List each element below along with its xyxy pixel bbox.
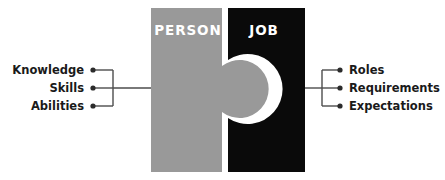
right-item-label-requirements: Requirements — [349, 81, 440, 95]
left-leader-lines — [93, 70, 151, 106]
right-item-label-roles: Roles — [349, 63, 384, 77]
right-item-label-expectations: Expectations — [349, 99, 433, 113]
job-label: JOB — [248, 22, 279, 38]
left-item-label-skills: Skills — [49, 81, 84, 95]
right-bullet-expectations — [337, 103, 342, 108]
left-item-label-abilities: Abilities — [31, 99, 84, 113]
left-bullet-knowledge — [90, 67, 95, 72]
right-leader-lines — [305, 70, 340, 106]
right-bullet-roles — [337, 67, 342, 72]
left-bullet-skills — [90, 85, 95, 90]
left-item-label-knowledge: Knowledge — [12, 63, 84, 77]
left-bullet-abilities — [90, 103, 95, 108]
person-label: PERSON — [154, 22, 221, 38]
person-job-fit-diagram: PERSON JOB Knowledge Skills Abilities — [0, 0, 445, 180]
right-bullet-requirements — [337, 85, 342, 90]
diagram-canvas: PERSON JOB Knowledge Skills Abilities — [0, 0, 445, 180]
